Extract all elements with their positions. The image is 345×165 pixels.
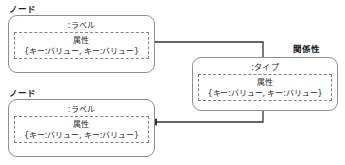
relationship-properties-title: 属性: [199, 76, 331, 87]
relationship-type-label: :タイプ: [193, 58, 337, 72]
relationship-properties: 属性 {キー:バリュー, キー:バリュー}: [198, 74, 332, 101]
relationship-box[interactable]: :タイプ 属性 {キー:バリュー, キー:バリュー}: [192, 57, 338, 111]
connector-relationship-to-node-bottom: [153, 110, 263, 122]
node-bottom-properties-title: 属性: [15, 118, 148, 129]
node-top-label: :ラベル: [9, 16, 154, 30]
node-bottom-label: :ラベル: [9, 100, 154, 114]
relationship-caption: 関係性: [293, 42, 321, 54]
property-graph-diagram: ノード :ラベル 属性 {キー:バリュー, キー:バリュー} 関係性 :タイプ …: [0, 0, 345, 165]
node-top-properties-title: 属性: [15, 34, 148, 45]
node-bottom-box[interactable]: :ラベル 属性 {キー:バリュー, キー:バリュー}: [8, 99, 155, 157]
node-bottom-caption: ノード: [9, 86, 37, 98]
node-top-properties: 属性 {キー:バリュー, キー:バリュー}: [14, 32, 149, 59]
node-top-caption: ノード: [9, 2, 37, 14]
node-bottom-properties: 属性 {キー:バリュー, キー:バリュー}: [14, 116, 149, 143]
relationship-properties-value: {キー:バリュー, キー:バリュー}: [199, 87, 331, 98]
connector-node-top-to-relationship: [155, 42, 263, 58]
node-top-properties-value: {キー:バリュー, キー:バリュー}: [15, 45, 148, 56]
node-top-box[interactable]: :ラベル 属性 {キー:バリュー, キー:バリュー}: [8, 15, 155, 73]
node-bottom-properties-value: {キー:バリュー, キー:バリュー}: [15, 129, 148, 140]
